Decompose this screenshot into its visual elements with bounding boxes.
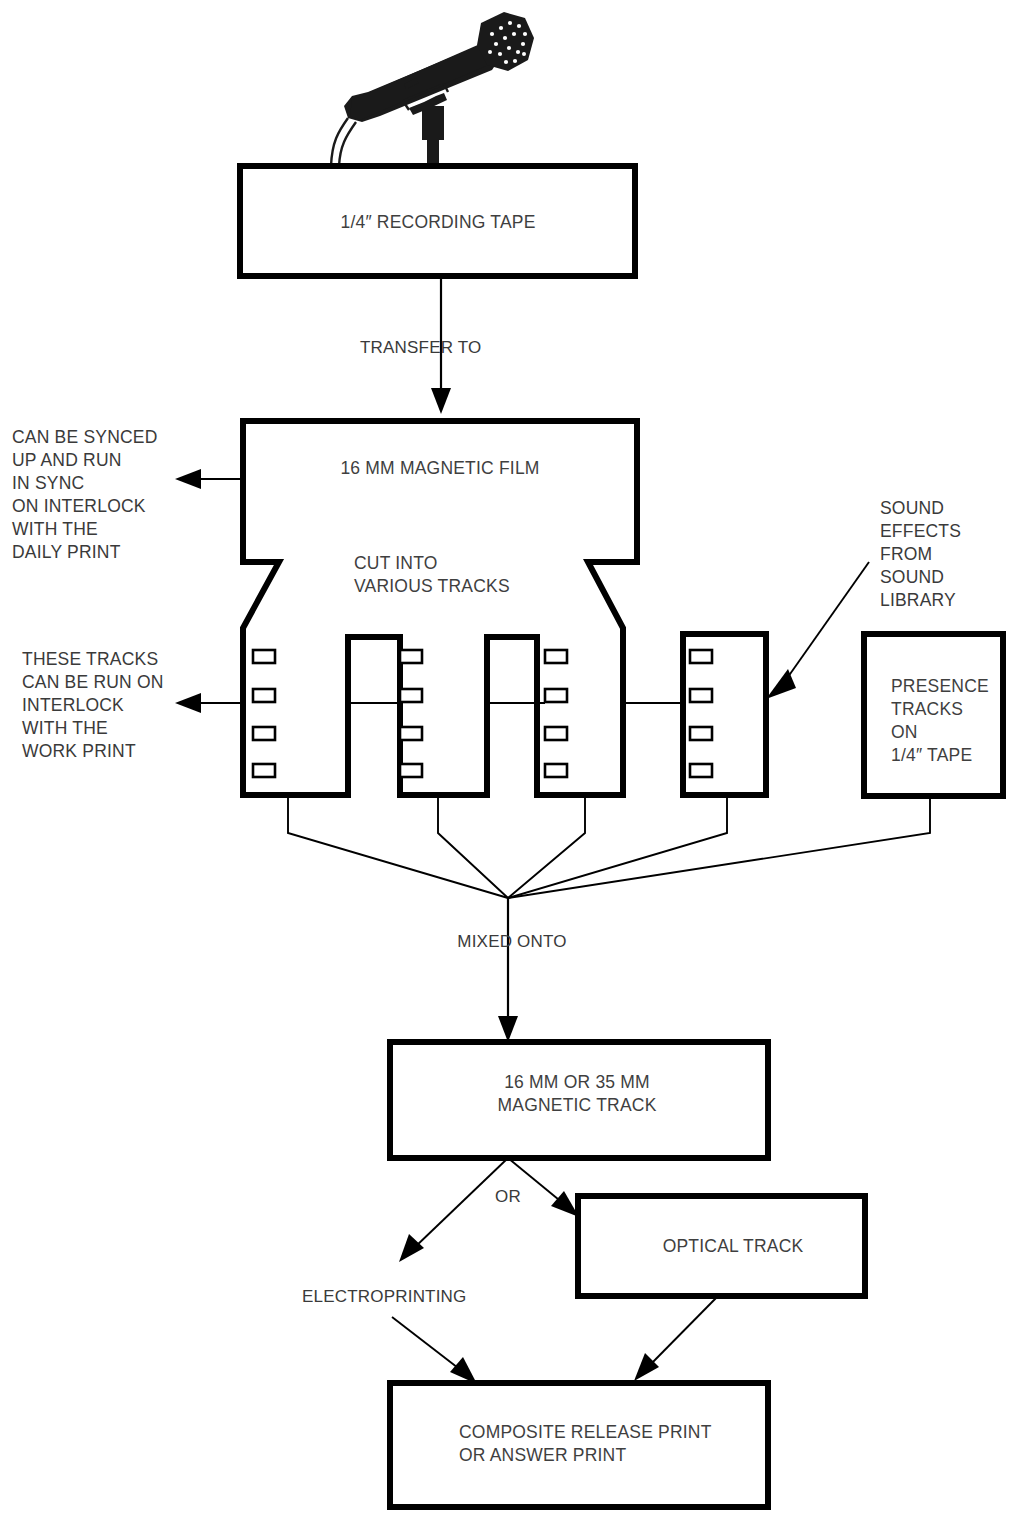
daily-print-line-1: CAN BE SYNCED	[12, 427, 158, 447]
connector-branch-or	[399, 1158, 579, 1262]
magnetic-film-label: 16 MM MAGNETIC FILM	[340, 458, 539, 478]
annotation-work-print: THESE TRACKS CAN BE RUN ON INTERLOCK WIT…	[22, 649, 164, 761]
arrow-daily-print	[175, 469, 243, 489]
presence-tracks-line-4: 1/4″ TAPE	[891, 745, 972, 765]
electroprinting-label: ELECTROPRINTING	[302, 1287, 467, 1306]
microphone-icon	[331, 12, 534, 166]
connector-electroprinting	[392, 1317, 477, 1384]
annotation-daily-print: CAN BE SYNCED UP AND RUN IN SYNC ON INTE…	[12, 427, 158, 562]
magnetic-film-sublabel-line1: CUT INTO	[354, 553, 438, 573]
sound-library-line-2: EFFECTS	[880, 521, 961, 541]
work-print-line-2: CAN BE RUN ON	[22, 672, 164, 692]
presence-tracks-line-2: TRACKS	[891, 699, 963, 719]
arrow-sound-library	[766, 562, 869, 699]
daily-print-line-6: DAILY PRINT	[12, 542, 121, 562]
sound-library-line-4: SOUND	[880, 567, 944, 587]
magnetic-film-sublabel-line2: VARIOUS TRACKS	[354, 576, 510, 596]
recording-tape-label: 1/4″ RECORDING TAPE	[340, 212, 535, 232]
sound-library-line-3: FROM	[880, 544, 932, 564]
or-label: OR	[495, 1187, 521, 1206]
daily-print-line-2: UP AND RUN	[12, 450, 122, 470]
composite-print-line-2: OR ANSWER PRINT	[459, 1445, 626, 1465]
annotation-sound-library: SOUND EFFECTS FROM SOUND LIBRARY	[880, 498, 961, 610]
presence-tracks-line-3: ON	[891, 722, 918, 742]
daily-print-line-5: WITH THE	[12, 519, 98, 539]
work-print-line-1: THESE TRACKS	[22, 649, 158, 669]
work-print-line-4: WITH THE	[22, 718, 108, 738]
sound-library-line-1: SOUND	[880, 498, 944, 518]
connector-optical-to-composite	[634, 1296, 718, 1381]
connector-mix-converge	[288, 795, 930, 898]
daily-print-line-4: ON INTERLOCK	[12, 496, 146, 516]
daily-print-line-3: IN SYNC	[12, 473, 84, 493]
node-track-4[interactable]	[683, 634, 766, 795]
transfer-to-label: TRANSFER TO	[360, 338, 482, 357]
composite-print-line-1: COMPOSITE RELEASE PRINT	[459, 1422, 712, 1442]
work-print-line-5: WORK PRINT	[22, 741, 136, 761]
magnetic-track-line-2: MAGNETIC TRACK	[497, 1095, 656, 1115]
magnetic-track-line-1: 16 MM OR 35 MM	[504, 1072, 650, 1092]
diagram-canvas: 1/4″ RECORDING TAPE TRANSFER TO 16 MM MA…	[0, 0, 1021, 1524]
arrow-work-print	[175, 693, 243, 713]
sound-library-line-5: LIBRARY	[880, 590, 956, 610]
mixed-onto-label: MIXED ONTO	[457, 932, 566, 951]
connector-mixed-onto	[498, 898, 518, 1042]
work-print-line-3: INTERLOCK	[22, 695, 124, 715]
optical-track-label: OPTICAL TRACK	[663, 1236, 804, 1256]
flowchart-diagram: 1/4″ RECORDING TAPE TRANSFER TO 16 MM MA…	[0, 0, 1021, 1524]
presence-tracks-line-1: PRESENCE	[891, 676, 989, 696]
